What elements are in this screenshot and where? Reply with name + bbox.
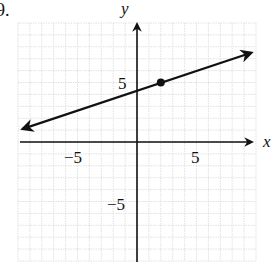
x-axis-label: x	[262, 132, 271, 151]
coordinate-plane: 9. x y −5 5 5 −5	[0, 0, 274, 269]
problem-number: 9.	[0, 0, 10, 20]
y-tick-label-neg5: −5	[107, 195, 125, 214]
x-tick-label-pos5: 5	[191, 148, 200, 167]
y-axis-label: y	[119, 0, 129, 18]
x-tick-label-neg5: −5	[64, 148, 82, 167]
y-tick-label-pos5: 5	[118, 74, 127, 93]
plotted-point	[157, 79, 165, 87]
